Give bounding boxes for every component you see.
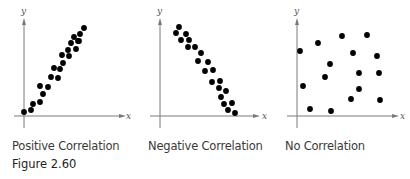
data-point <box>73 46 79 52</box>
y-axis-label: y <box>156 6 163 16</box>
no-correlation-caption: No Correlation <box>285 139 365 153</box>
data-point <box>28 107 34 113</box>
data-point <box>229 100 235 106</box>
data-point <box>350 50 356 56</box>
data-point <box>364 32 370 38</box>
x-axis-label: x <box>126 111 131 121</box>
data-point <box>68 40 74 46</box>
negative-correlation-caption: Negative Correlation <box>148 139 263 153</box>
y-axis-label: y <box>293 6 300 16</box>
data-point <box>339 33 345 39</box>
data-point <box>37 99 43 105</box>
data-point <box>192 44 198 50</box>
data-point <box>209 79 215 85</box>
data-point <box>376 70 382 76</box>
data-point <box>374 53 380 59</box>
data-point <box>59 52 65 58</box>
data-point <box>300 83 306 89</box>
x-axis-label: x <box>262 111 267 121</box>
data-point <box>307 106 313 112</box>
data-point <box>217 78 223 84</box>
data-point <box>183 31 189 37</box>
data-point <box>37 83 43 89</box>
data-point <box>178 37 184 43</box>
data-point <box>195 58 201 64</box>
data-point <box>322 74 328 80</box>
data-point <box>173 30 179 36</box>
data-point <box>205 59 211 65</box>
data-point <box>377 97 383 103</box>
positive-correlation-caption: Positive Correlation <box>12 139 119 153</box>
data-point <box>66 53 72 59</box>
data-point <box>202 68 208 74</box>
data-point <box>40 91 46 97</box>
data-point <box>216 85 222 91</box>
data-point <box>48 74 54 80</box>
negative-correlation-axes: y x <box>150 6 267 128</box>
data-point <box>356 86 362 92</box>
data-point <box>21 109 27 115</box>
data-point <box>297 48 303 54</box>
data-point <box>30 101 36 107</box>
data-point <box>328 108 334 114</box>
data-point <box>55 75 61 81</box>
data-point <box>225 107 231 113</box>
data-point <box>57 66 63 72</box>
no-correlation-axes: y x <box>287 6 405 128</box>
no-correlation-points <box>297 32 383 114</box>
x-axis-label: x <box>400 111 405 121</box>
data-point <box>315 40 321 46</box>
data-point <box>327 61 333 67</box>
data-point <box>51 65 57 71</box>
data-point <box>210 67 216 73</box>
data-point <box>185 44 191 50</box>
data-point <box>60 60 66 66</box>
data-point <box>45 84 51 90</box>
data-point <box>223 88 229 94</box>
figure-label: Figure 2.60 <box>12 157 76 171</box>
y-axis-label: y <box>20 6 27 16</box>
data-point <box>221 101 227 107</box>
data-point <box>198 50 204 56</box>
data-point <box>77 31 83 37</box>
data-point <box>76 38 82 44</box>
data-point <box>348 96 354 102</box>
negative-correlation-points <box>173 24 238 116</box>
data-point <box>356 70 362 76</box>
data-point <box>65 47 71 53</box>
positive-correlation-points <box>21 25 87 115</box>
data-point <box>176 24 182 30</box>
data-point <box>218 94 224 100</box>
data-point <box>232 110 238 116</box>
data-point <box>81 25 87 31</box>
data-point <box>186 37 192 43</box>
